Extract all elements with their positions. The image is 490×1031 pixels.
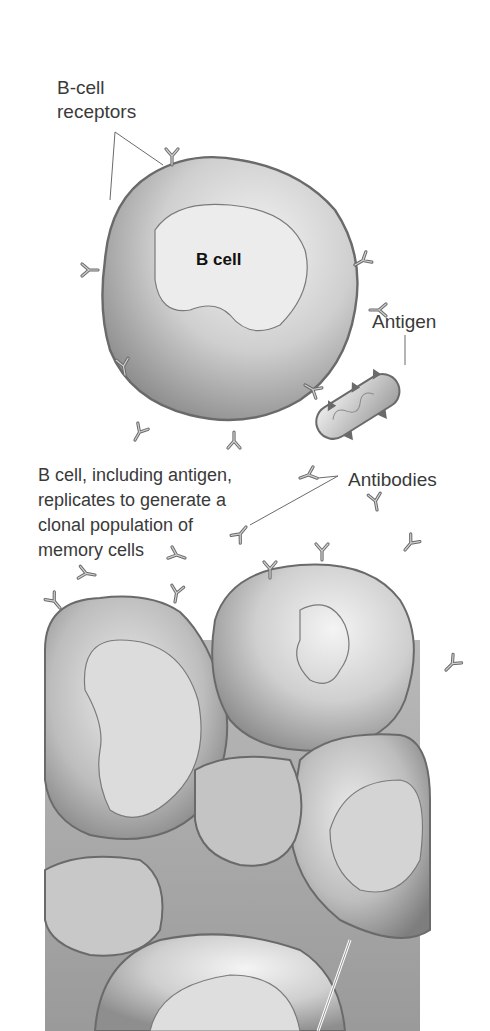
memory-cell-cluster <box>45 564 430 1031</box>
diagram-canvas: B-cell receptors B cell Antigen B cell, … <box>0 0 490 1031</box>
label-antibodies: Antibodies <box>348 468 437 492</box>
label-b-cell-receptors: B-cell receptors <box>57 76 136 124</box>
label-antigen: Antigen <box>372 310 436 334</box>
label-replication-caption: B cell, including antigen, replicates to… <box>38 463 232 563</box>
label-b-cell: B cell <box>196 250 241 270</box>
b-cell <box>102 157 357 420</box>
